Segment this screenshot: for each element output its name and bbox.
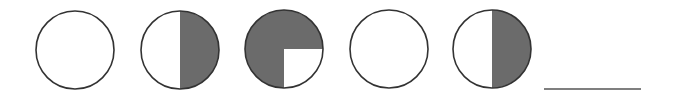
diagram-svg — [0, 0, 676, 102]
shaded-region — [180, 11, 219, 89]
circle-1-empty — [36, 11, 114, 89]
circle-2-half-shaded — [141, 11, 219, 89]
circle-4-empty — [350, 10, 428, 88]
pattern-diagram: Fraction circle pattern sequence — [0, 0, 676, 102]
shaded-region — [492, 10, 531, 88]
circle-3-three-quarter-shaded — [245, 10, 323, 88]
circle-5-half-shaded — [453, 10, 531, 88]
